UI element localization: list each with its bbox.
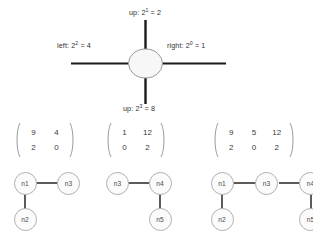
matrix-cell: 2	[220, 143, 243, 152]
graph-node-n1[interactable]: n1	[211, 172, 234, 195]
matrix-3: 9 5 12 2 0 2	[212, 122, 296, 158]
matrix-cell: 0	[113, 143, 136, 152]
matrix-2: 1 12 0 2	[105, 122, 167, 158]
diagram-canvas	[0, 0, 313, 237]
graph-node-n4[interactable]: n4	[299, 172, 313, 195]
direction-label-left: left: 22 = 4	[57, 41, 91, 50]
graph-node-n3[interactable]: n3	[57, 172, 80, 195]
bracket-left-icon	[105, 122, 112, 158]
matrix-cell: 0	[243, 143, 266, 152]
bracket-right-icon	[69, 122, 76, 158]
graph-node-n2[interactable]: n2	[14, 208, 37, 231]
bracket-left-icon	[212, 122, 219, 158]
matrix-row: 9 4	[22, 125, 68, 140]
bracket-right-icon	[160, 122, 167, 158]
matrix-cell: 2	[265, 143, 288, 152]
matrix-cell: 9	[22, 128, 45, 137]
graph-node-n1[interactable]: n1	[14, 172, 37, 195]
graph-node-n3[interactable]: n3	[255, 172, 278, 195]
matrix-cell: 5	[243, 128, 266, 137]
matrix-row: 2 0	[22, 140, 68, 155]
graph-node-n5[interactable]: n5	[149, 208, 172, 231]
matrix-row: 2 0 2	[220, 140, 288, 155]
matrix-row: 9 5 12	[220, 125, 288, 140]
matrix-2-body: 1 12 0 2	[112, 122, 160, 158]
center-node[interactable]	[129, 49, 163, 78]
matrix-cell: 12	[265, 128, 288, 137]
graph-node-n3[interactable]: n3	[106, 172, 129, 195]
bracket-right-icon	[289, 122, 296, 158]
direction-cross	[71, 20, 226, 104]
matrix-row: 1 12	[113, 125, 159, 140]
matrix-cell: 1	[113, 128, 136, 137]
bracket-left-icon	[14, 122, 21, 158]
matrix-cell: 9	[220, 128, 243, 137]
graph-node-n2[interactable]: n2	[211, 208, 234, 231]
direction-label-right: right: 20 = 1	[167, 41, 205, 50]
matrix-3-body: 9 5 12 2 0 2	[219, 122, 289, 158]
matrix-cell: 2	[22, 143, 45, 152]
graph-node-n4[interactable]: n4	[149, 172, 172, 195]
matrix-cell: 4	[45, 128, 68, 137]
matrix-cell: 2	[136, 143, 159, 152]
direction-label-up: up: 21 = 2	[129, 8, 161, 17]
matrix-1-body: 9 4 2 0	[21, 122, 69, 158]
matrix-cell: 0	[45, 143, 68, 152]
matrix-1: 9 4 2 0	[14, 122, 76, 158]
direction-label-down: up: 23 = 8	[123, 104, 155, 113]
matrix-row: 0 2	[113, 140, 159, 155]
matrix-cell: 12	[136, 128, 159, 137]
